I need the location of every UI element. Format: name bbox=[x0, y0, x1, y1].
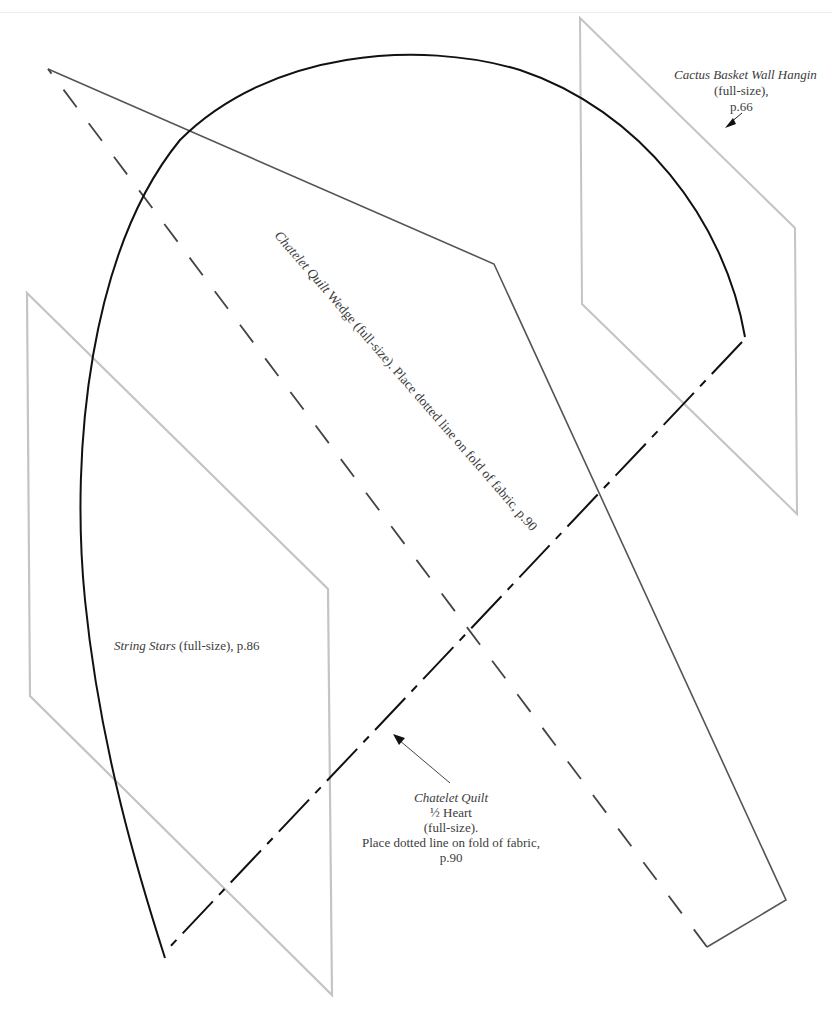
string-stars-details: (full-size), p.86 bbox=[176, 638, 260, 653]
heart-page: p.90 bbox=[352, 850, 550, 865]
heart-half: ½ Heart bbox=[352, 805, 550, 820]
cactus-template-label: Cactus Basket Wall Hangin (full-size), p… bbox=[672, 67, 832, 115]
arrow-down-left-icon bbox=[725, 113, 742, 128]
cactus-title: Cactus Basket Wall Hangin bbox=[672, 67, 832, 83]
string-stars-title: String Stars bbox=[114, 638, 176, 653]
arrow-up-left-icon bbox=[393, 734, 450, 783]
heart-title: Chatelet Quilt bbox=[352, 790, 550, 805]
heart-size: (full-size). bbox=[352, 820, 550, 835]
heart-label: Chatelet Quilt ½ Heart (full-size). Plac… bbox=[352, 790, 550, 865]
string-stars-label: String Stars (full-size), p.86 bbox=[114, 638, 260, 654]
cactus-page: p.66 bbox=[672, 99, 832, 115]
heart-instruction: Place dotted line on fold of fabric, bbox=[352, 835, 550, 850]
pattern-sheet bbox=[0, 0, 832, 1019]
cactus-size: (full-size), bbox=[672, 83, 832, 99]
